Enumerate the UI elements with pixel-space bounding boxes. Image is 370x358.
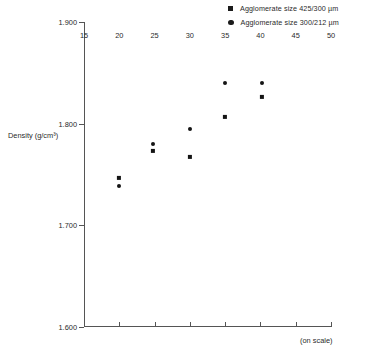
data-point-circle bbox=[151, 142, 155, 146]
data-point-square bbox=[260, 95, 264, 99]
plot-area: 1.6001.7001.8001.900 1520253035404550 bbox=[84, 22, 331, 327]
legend-item-label: Agglomerate size 425/300 µm bbox=[240, 4, 338, 13]
x-axis-tick bbox=[119, 322, 120, 327]
data-point-square bbox=[223, 114, 227, 118]
y-axis-tick bbox=[79, 327, 84, 328]
y-axis-tick-label: 1.800 bbox=[59, 119, 78, 128]
x-axis-tick bbox=[155, 322, 156, 327]
data-point-square bbox=[188, 155, 192, 159]
x-axis-tick-label: 40 bbox=[256, 31, 264, 40]
y-axis-tick-label: 1.700 bbox=[59, 221, 78, 230]
x-axis-tick bbox=[84, 322, 85, 327]
y-axis-tick-label: 1.600 bbox=[59, 323, 78, 332]
data-point-circle bbox=[188, 127, 192, 131]
scatter-chart-figure: Agglomerate size 425/300 µm Agglomerate … bbox=[0, 0, 370, 358]
data-point-circle bbox=[260, 81, 264, 85]
data-point-circle bbox=[223, 81, 227, 85]
x-axis-note: (on scale) bbox=[300, 336, 332, 345]
data-point-square bbox=[151, 149, 155, 153]
y-axis-line bbox=[84, 22, 85, 327]
y-axis-tick bbox=[79, 22, 84, 23]
x-axis-tick-label: 15 bbox=[80, 31, 88, 40]
legend-square-marker-icon bbox=[228, 6, 233, 11]
x-axis-tick bbox=[331, 322, 332, 327]
y-axis-tick-label: 1.900 bbox=[59, 18, 78, 27]
x-axis-tick-label: 50 bbox=[327, 31, 335, 40]
data-point-circle bbox=[117, 184, 121, 188]
x-axis-tick-label: 25 bbox=[150, 31, 158, 40]
x-axis-line bbox=[84, 326, 331, 327]
x-axis-tick-label: 20 bbox=[115, 31, 123, 40]
x-axis-tick-label: 30 bbox=[186, 31, 194, 40]
y-axis-title: Density (g/cm³) bbox=[8, 131, 58, 140]
y-axis-tick bbox=[79, 225, 84, 226]
x-axis-tick bbox=[225, 322, 226, 327]
x-axis-tick-label: 45 bbox=[292, 31, 300, 40]
x-axis-tick bbox=[190, 322, 191, 327]
data-point-square bbox=[117, 175, 121, 179]
y-axis-tick bbox=[79, 124, 84, 125]
x-axis-tick-label: 35 bbox=[221, 31, 229, 40]
legend-item-425-300: Agglomerate size 425/300 µm bbox=[228, 4, 339, 13]
x-axis-tick bbox=[296, 322, 297, 327]
x-axis-tick bbox=[260, 322, 261, 327]
